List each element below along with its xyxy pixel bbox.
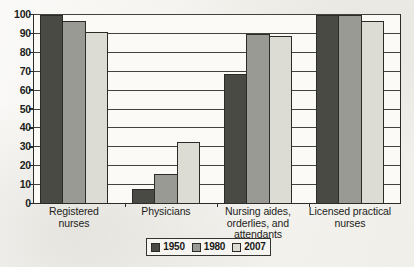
bar (224, 74, 247, 203)
y-axis-label-10: 10 (3, 179, 31, 190)
legend-label-1950: 1950 (163, 242, 184, 252)
legend-item-2007: 2007 (232, 242, 265, 252)
category-label-line: nurses (17, 218, 131, 230)
bar-rect-1980-3 (339, 16, 362, 203)
bar (247, 35, 270, 203)
bar (316, 16, 339, 203)
category-label-line: Licensed practical (293, 206, 407, 218)
legend-swatch-icon-1980 (192, 243, 201, 252)
bar-rect-2007-0 (85, 33, 108, 203)
bar-rect-2007-3 (361, 22, 384, 203)
bar-rect-1980-1 (155, 175, 178, 203)
bar-rect-1950-0 (40, 16, 63, 203)
y-axis-label-90: 90 (3, 28, 31, 39)
chart-legend: 195019802007 (146, 238, 271, 256)
bar-rect-2007-2 (269, 37, 292, 203)
bar (132, 190, 155, 203)
bar (177, 143, 200, 203)
bar (85, 33, 108, 203)
bar-rect-1980-0 (63, 22, 86, 203)
legend-label-2007: 2007 (244, 242, 265, 252)
bar (155, 175, 178, 203)
category-label-line: nurses (293, 218, 407, 230)
legend-swatch-icon-1950 (151, 243, 160, 252)
bar (40, 16, 63, 203)
bar (269, 37, 292, 203)
y-axis-label-60: 60 (3, 84, 31, 95)
legend-item-1980: 1980 (192, 242, 225, 252)
y-axis-label-80: 80 (3, 47, 31, 58)
bar-rect-2007-1 (177, 143, 200, 203)
y-axis-label-30: 30 (3, 141, 31, 152)
bar (339, 16, 362, 203)
y-axis-label-20: 20 (3, 160, 31, 171)
bar-rect-1980-2 (247, 35, 270, 203)
bar (63, 22, 86, 203)
bar (361, 22, 384, 203)
category-label-3: Licensed practicalnurses (293, 206, 407, 229)
y-axis-label-40: 40 (3, 122, 31, 133)
legend-label-1980: 1980 (204, 242, 225, 252)
bar-rect-1950-3 (316, 16, 339, 203)
y-axis-label-50: 50 (3, 103, 31, 114)
legend-item-1950: 1950 (151, 242, 184, 252)
bar-rect-1950-2 (224, 74, 247, 203)
legend-swatch-icon-2007 (232, 243, 241, 252)
bar-rect-1950-1 (132, 190, 155, 203)
y-axis-label-70: 70 (3, 65, 31, 76)
y-axis-label-100: 100 (3, 9, 31, 20)
bar-chart-figure: 1009080706050403020100 RegisterednursesP… (0, 0, 414, 267)
